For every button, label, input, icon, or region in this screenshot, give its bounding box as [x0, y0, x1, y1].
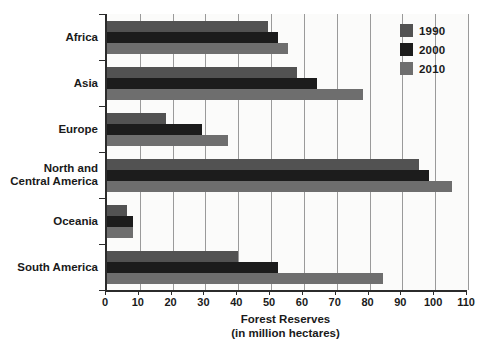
x-tick-label-10: 10 — [132, 296, 144, 308]
x-tick-label-100: 100 — [424, 296, 442, 308]
legend-swatch-icon — [400, 62, 413, 75]
x-tick-20 — [171, 290, 172, 295]
x-tick-100 — [433, 290, 434, 295]
gridline-10 — [140, 14, 141, 290]
legend: 199020002010 — [400, 22, 468, 79]
x-tick-110 — [466, 290, 467, 295]
bar-group — [107, 159, 468, 192]
y-tick — [99, 106, 105, 107]
legend-label: 1990 — [419, 25, 445, 37]
bar — [107, 170, 429, 181]
gridline-80 — [370, 14, 371, 290]
x-tick-label-30: 30 — [197, 296, 209, 308]
legend-item: 2000 — [400, 41, 468, 58]
x-axis-title-line2: (in million hectares) — [105, 326, 466, 340]
x-tick-label-70: 70 — [329, 296, 341, 308]
x-tick-40 — [236, 290, 237, 295]
y-tick — [99, 244, 105, 245]
x-tick-label-80: 80 — [361, 296, 373, 308]
x-tick-80 — [368, 290, 369, 295]
y-axis-label-line: South America — [0, 261, 98, 274]
bar — [107, 181, 452, 192]
bar — [107, 135, 228, 146]
bar — [107, 205, 127, 216]
x-tick-label-20: 20 — [165, 296, 177, 308]
bar — [107, 124, 202, 135]
gridline-70 — [337, 14, 338, 290]
x-tick-60 — [302, 290, 303, 295]
legend-label: 2000 — [419, 44, 445, 56]
bar — [107, 159, 419, 170]
y-tick — [99, 60, 105, 61]
bar — [107, 21, 268, 32]
legend-label: 2010 — [419, 63, 445, 75]
y-axis-label-line: Africa — [0, 31, 98, 44]
bar — [107, 262, 278, 273]
x-axis-line — [105, 290, 467, 292]
bar — [107, 273, 383, 284]
y-tick — [99, 152, 105, 153]
x-tick-30 — [203, 290, 204, 295]
bar — [107, 113, 166, 124]
x-tick-label-0: 0 — [102, 296, 108, 308]
y-axis-label-asia: Asia — [0, 77, 98, 90]
bar — [107, 43, 288, 54]
y-axis-label-line: North and — [0, 162, 98, 175]
y-axis-label-europe: Europe — [0, 123, 98, 136]
gridline-50 — [271, 14, 272, 290]
y-axis-label-africa: Africa — [0, 31, 98, 44]
y-tick — [99, 198, 105, 199]
bar — [107, 67, 297, 78]
bar — [107, 251, 238, 262]
y-axis-label-south-america: South America — [0, 261, 98, 274]
legend-swatch-icon — [400, 24, 413, 37]
x-tick-label-60: 60 — [296, 296, 308, 308]
y-axis-label-line: Asia — [0, 77, 98, 90]
bar-group — [107, 251, 468, 284]
gridline-20 — [173, 14, 174, 290]
legend-item: 1990 — [400, 22, 468, 39]
x-tick-label-50: 50 — [263, 296, 275, 308]
bar-group — [107, 113, 468, 146]
legend-swatch-icon — [400, 43, 413, 56]
x-tick-50 — [269, 290, 270, 295]
x-tick-label-110: 110 — [457, 296, 475, 308]
gridline-30 — [205, 14, 206, 290]
y-axis-label-oceania: Oceania — [0, 215, 98, 228]
y-axis-label-line: Europe — [0, 123, 98, 136]
y-axis-label-north-and-central-america: North andCentral America — [0, 162, 98, 188]
x-tick-label-40: 40 — [230, 296, 242, 308]
bar — [107, 216, 133, 227]
y-tick — [99, 14, 105, 15]
bar — [107, 89, 363, 100]
y-axis-label-line: Oceania — [0, 215, 98, 228]
x-axis-title-line1: Forest Reserves — [241, 313, 331, 325]
x-tick-10 — [138, 290, 139, 295]
bar-chart: 0102030405060708090100110 AfricaAsiaEuro… — [0, 0, 482, 344]
y-axis-label-line: Central America — [0, 175, 98, 188]
x-tick-90 — [400, 290, 401, 295]
gridline-60 — [304, 14, 305, 290]
legend-item: 2010 — [400, 60, 468, 77]
gridline-110 — [468, 14, 469, 290]
x-tick-0 — [105, 290, 106, 295]
y-tick — [99, 290, 105, 291]
bar-group — [107, 205, 468, 238]
gridline-40 — [238, 14, 239, 290]
bar — [107, 32, 278, 43]
bar — [107, 227, 133, 238]
x-axis-title: Forest Reserves (in million hectares) — [105, 312, 466, 340]
bar — [107, 78, 317, 89]
x-tick-label-90: 90 — [394, 296, 406, 308]
x-tick-70 — [335, 290, 336, 295]
